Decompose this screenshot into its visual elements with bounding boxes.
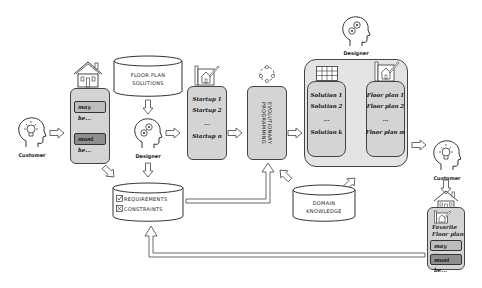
customer-left-label: Customer — [12, 152, 52, 158]
requirements-db — [112, 182, 184, 224]
arrow-startup-to-evolutionary — [228, 128, 242, 138]
arrow-designer-to-requirements — [143, 163, 153, 177]
customer-right-label: Customer — [427, 175, 467, 181]
designer-center-label: Designer — [128, 153, 168, 159]
arrow-preferences-to-requirements — [100, 163, 117, 180]
arrow-evolutionary-to-solutions — [288, 128, 302, 138]
designer-center-icon — [133, 118, 163, 150]
solution-item: Solution 2 — [311, 101, 343, 112]
checkbox-x-icon — [116, 205, 123, 212]
floor-plan-solutions-label-1: FLOOR PLAN — [113, 72, 183, 78]
floorplan-design-icon — [194, 64, 220, 86]
arrow-solutions-to-designer — [143, 100, 153, 114]
floorplan-design-icon — [434, 210, 452, 224]
may-be-chip: may be... — [430, 240, 462, 251]
solutions-list: Solution 1 Solution 2 ... Solution k — [307, 90, 346, 138]
arrow-customer-to-preferences — [50, 128, 64, 138]
floorplans-list: Floor plan 1 Floor plan 2 ... Floor plan… — [366, 90, 405, 138]
solution-item: Solution k — [311, 127, 343, 138]
arrow-domain-to-evolutionary — [277, 167, 294, 184]
arrow-requirements-to-evolutionary — [186, 163, 274, 203]
floorplan-design-icon — [374, 60, 400, 82]
may-be-chip: may be... — [74, 101, 106, 113]
evolutionary-line-1: EVOLUTIONARY — [267, 102, 273, 144]
startup-item: ... — [204, 118, 210, 129]
favorite-title-2: Floor plan — [432, 231, 464, 237]
constraints-label: CONSTRAINTS — [124, 206, 163, 212]
requirements-label: REQUIREMENTS — [124, 196, 167, 202]
arrow-designer-to-startup — [166, 128, 180, 138]
domain-knowledge-label-1: DOMAIN — [292, 200, 356, 206]
startup-item: Startup n — [192, 131, 221, 142]
solution-item: Solution 1 — [311, 90, 343, 101]
cycle-icon — [257, 64, 277, 84]
customer-left-icon — [17, 117, 47, 149]
startup-item: Startup 1 — [192, 94, 221, 105]
floor-plan-solutions-label-2: SOLUTIONS — [113, 80, 183, 86]
designer-top-icon — [341, 16, 371, 48]
house-icon — [72, 60, 104, 88]
solution-item: ... — [324, 114, 330, 125]
evolutionary-line-2: PROGRAMMING — [261, 102, 267, 144]
floorplan-item: ... — [383, 114, 389, 125]
arrow-box-to-customer — [412, 140, 426, 150]
floorplan-item: Floor plan 1 — [367, 90, 404, 101]
domain-knowledge-label-2: KNOWLEDGE — [292, 208, 356, 214]
startup-list: Startup 1 Startup 2 ... Startup n — [187, 94, 227, 142]
grid-table-icon — [316, 66, 338, 81]
arrow-feedback-to-requirements — [145, 226, 425, 257]
must-be-chip: must be... — [430, 254, 462, 265]
startup-item: Startup 2 — [192, 105, 221, 116]
customer-right-icon — [432, 140, 462, 172]
favorite-title-1: Favorite — [432, 224, 457, 230]
floorplan-item: Floor plan m — [366, 127, 405, 138]
checkbox-checked-icon — [116, 195, 123, 202]
must-be-chip: must be... — [74, 133, 106, 145]
designer-top-label: Designer — [336, 50, 376, 56]
floorplan-item: Floor plan 2 — [367, 101, 404, 112]
evolutionary-label: EVOLUTIONARY PROGRAMMING — [247, 86, 287, 160]
